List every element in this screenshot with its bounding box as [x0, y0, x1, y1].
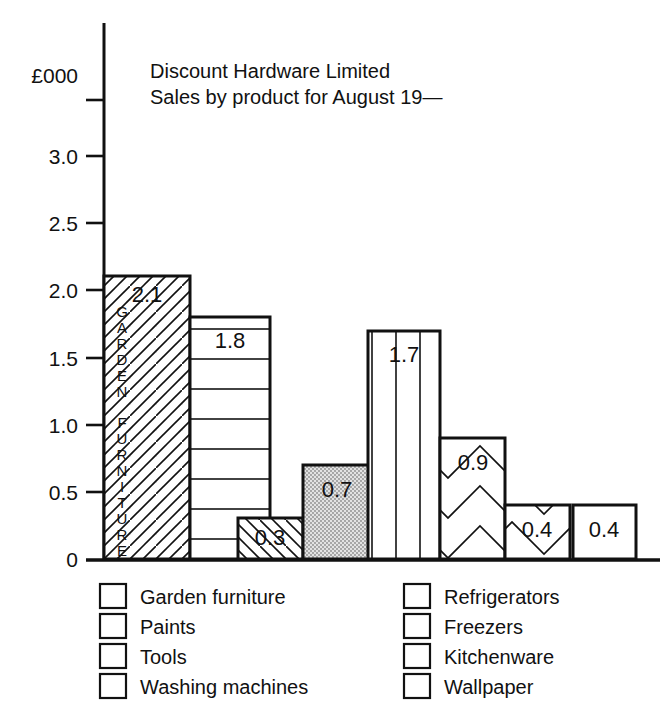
legend-swatch-chevron-up-icon: [404, 614, 430, 638]
svg-text:F: F: [117, 414, 126, 431]
y-tick-label-2-5: 2.5: [49, 212, 78, 235]
legend-label-freezers: Freezers: [444, 616, 523, 638]
legend-label-refrigerators: Refrigerators: [444, 586, 560, 608]
y-axis-unit-label: £000: [31, 64, 78, 87]
chart-legend: Garden furniture Paints Tools Washing ma…: [100, 584, 560, 698]
legend-swatch-plain-white-icon: [404, 674, 430, 698]
legend-item-refrigerators[interactable]: Refrigerators: [404, 584, 560, 608]
legend-item-tools[interactable]: Tools: [100, 644, 187, 668]
legend-label-paints: Paints: [140, 616, 196, 638]
legend-item-paints[interactable]: Paints: [100, 614, 196, 638]
bar-garden-furniture[interactable]: 2.1 G A R D E N F U R N I T U R E: [104, 276, 190, 559]
bar-value-tools: 0.3: [255, 525, 286, 550]
svg-text:E: E: [117, 542, 127, 559]
svg-text:D: D: [117, 351, 128, 368]
legend-swatch-chevron-down-icon: [404, 644, 430, 668]
legend-label-garden-furniture: Garden furniture: [140, 586, 286, 608]
legend-item-freezers[interactable]: Freezers: [404, 614, 523, 638]
chart-title-block: Discount Hardware Limited Sales by produ…: [150, 60, 442, 108]
svg-text:U: U: [117, 430, 128, 447]
bar-tools[interactable]: 0.3: [238, 518, 303, 559]
y-tick-label-0: 0: [66, 548, 78, 571]
bar-chart-figure: £000 3.0 2.5 2.0 1.5 1.0 0.5 0 Discount …: [0, 0, 669, 721]
legend-swatch-vertical-lines-icon: [404, 584, 430, 608]
svg-text:A: A: [117, 319, 127, 336]
svg-text:R: R: [117, 335, 128, 352]
y-tick-label-2-0: 2.0: [49, 279, 78, 302]
bar-wallpaper[interactable]: 0.4: [573, 505, 636, 559]
bar-refrigerators[interactable]: 1.7: [368, 331, 440, 559]
legend-item-kitchenware[interactable]: Kitchenware: [404, 644, 554, 668]
legend-item-wallpaper[interactable]: Wallpaper: [404, 674, 534, 698]
bar-value-kitchenware: 0.4: [522, 517, 553, 542]
bar-value-paints: 1.8: [215, 328, 246, 353]
bars-group: 2.1 G A R D E N F U R N I T U R E: [104, 276, 636, 559]
bar-washing-machines[interactable]: 0.7: [303, 465, 370, 559]
svg-text:R: R: [117, 446, 128, 463]
svg-text:N: N: [117, 462, 128, 479]
legend-item-garden-furniture[interactable]: Garden furniture: [100, 584, 286, 608]
y-tick-label-0-5: 0.5: [49, 481, 78, 504]
bar-value-garden-furniture: 2.1: [132, 282, 163, 307]
y-tick-label-1-0: 1.0: [49, 414, 78, 437]
chart-subtitle: Sales by product for August 19—: [150, 86, 442, 108]
svg-text:T: T: [117, 494, 126, 511]
chart-canvas: £000 3.0 2.5 2.0 1.5 1.0 0.5 0 Discount …: [0, 0, 669, 721]
legend-swatch-diagonal-hatch-forward-icon: [100, 584, 126, 608]
bar-value-wallpaper: 0.4: [589, 517, 620, 542]
svg-text:R: R: [117, 526, 128, 543]
legend-label-tools: Tools: [140, 646, 187, 668]
svg-text:G: G: [116, 303, 128, 320]
y-tick-label-1-5: 1.5: [49, 347, 78, 370]
chart-title: Discount Hardware Limited: [150, 60, 390, 82]
bar-freezers[interactable]: 0.9: [440, 438, 505, 559]
y-tick-label-3-0: 3.0: [49, 145, 78, 168]
legend-item-washing-machines[interactable]: Washing machines: [100, 674, 308, 698]
legend-swatch-diagonal-hatch-backward-icon: [100, 644, 126, 668]
y-axis-ticks: [86, 100, 104, 492]
bar-value-refrigerators: 1.7: [389, 342, 420, 367]
bar-value-freezers: 0.9: [458, 450, 489, 475]
svg-text:U: U: [117, 510, 128, 527]
legend-label-kitchenware: Kitchenware: [444, 646, 554, 668]
legend-label-washing-machines: Washing machines: [140, 676, 308, 698]
legend-swatch-stipple-grey-icon: [100, 674, 126, 698]
legend-label-wallpaper: Wallpaper: [444, 676, 534, 698]
svg-text:N: N: [117, 383, 128, 400]
bar-inline-vertical-label: G A R D E N F U R N I T U R E: [116, 303, 128, 559]
bar-kitchenware[interactable]: 0.4: [505, 505, 570, 559]
legend-swatch-horizontal-lines-icon: [100, 614, 126, 638]
svg-text:I: I: [120, 478, 124, 495]
bar-value-washing-machines: 0.7: [322, 477, 353, 502]
svg-text:E: E: [117, 367, 127, 384]
